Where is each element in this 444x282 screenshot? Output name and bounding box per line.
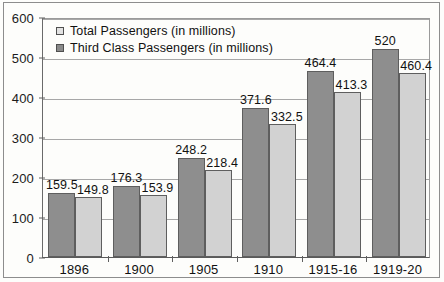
x-axis-category-label: 1919-20 — [373, 262, 422, 277]
bar-series-third-class — [399, 73, 426, 257]
legend-label-third-class: Third Class Passengers (in millions) — [70, 41, 273, 55]
chart-legend: Total Passengers (in millions) Third Cla… — [56, 23, 273, 57]
y-tick-mark — [39, 58, 45, 59]
bar-value-label-total: 248.2 — [175, 143, 207, 157]
bar-chart-figure: 159.5149.8176.3153.9248.2218.4371.6332.5… — [0, 0, 444, 282]
bar-series-total — [48, 193, 75, 257]
x-axis-category-label: 1915-16 — [308, 262, 357, 277]
x-axis-category-label: 1910 — [253, 262, 283, 277]
x-tick-mark — [237, 256, 238, 262]
bar-value-label-total: 464.4 — [305, 56, 337, 70]
bar-series-total — [113, 186, 140, 257]
bar-value-label-third-class: 149.8 — [77, 183, 109, 197]
bar-value-label-third-class: 153.9 — [142, 181, 174, 195]
legend-item-third-class: Third Class Passengers (in millions) — [56, 40, 273, 55]
bar-series-total — [242, 108, 269, 257]
x-tick-mark — [172, 256, 173, 262]
bar-value-label-total: 371.6 — [240, 93, 272, 107]
bar-series-total — [178, 158, 205, 257]
y-tick-mark — [39, 258, 45, 259]
x-tick-mark — [366, 256, 367, 262]
y-tick-label: 100 — [0, 211, 34, 226]
bar-value-label-total: 176.3 — [111, 171, 143, 185]
x-axis-category-label: 1896 — [59, 262, 89, 277]
x-tick-mark — [302, 256, 303, 262]
y-tick-label: 500 — [0, 51, 34, 66]
x-axis-category-label: 1900 — [124, 262, 154, 277]
y-tick-label: 400 — [0, 91, 34, 106]
legend-label-total: Total Passengers (in millions) — [70, 24, 236, 38]
y-tick-mark — [39, 138, 45, 139]
bar-value-label-third-class: 460.4 — [400, 59, 432, 73]
bar-series-total — [372, 49, 399, 257]
bar-series-third-class — [75, 197, 102, 257]
y-tick-label: 300 — [0, 131, 34, 146]
x-axis-category-label: 1905 — [189, 262, 219, 277]
bar-series-total — [307, 71, 334, 257]
y-tick-mark — [39, 98, 45, 99]
y-tick-mark — [39, 178, 45, 179]
y-tick-label: 600 — [0, 11, 34, 26]
bar-series-third-class — [269, 124, 296, 257]
bar-value-label-third-class: 332.5 — [271, 110, 303, 124]
bar-series-third-class — [140, 195, 167, 257]
y-tick-mark — [39, 18, 45, 19]
bar-series-third-class — [334, 92, 361, 257]
gridline — [43, 19, 429, 20]
bar-value-label-third-class: 218.4 — [206, 156, 238, 170]
legend-item-total: Total Passengers (in millions) — [56, 23, 273, 38]
y-tick-label: 200 — [0, 171, 34, 186]
legend-swatch-total-icon — [56, 27, 64, 35]
bar-value-label-total: 159.5 — [46, 178, 78, 192]
y-tick-label: 0 — [0, 251, 34, 266]
x-tick-mark — [108, 256, 109, 262]
bar-value-label-total: 520 — [375, 34, 396, 48]
legend-swatch-third-class-icon — [56, 44, 64, 52]
bar-value-label-third-class: 413.3 — [336, 78, 368, 92]
y-tick-mark — [39, 218, 45, 219]
bar-series-third-class — [205, 170, 232, 257]
